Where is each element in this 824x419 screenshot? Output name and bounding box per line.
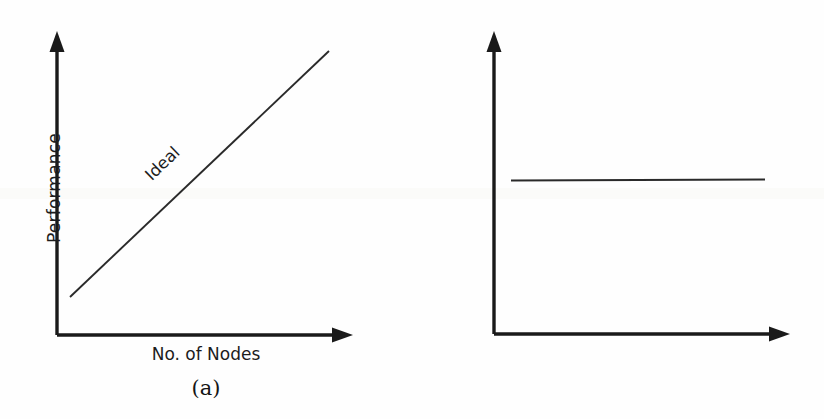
figure-container: Performance Ideal No. of Nodes (a) Perfo…: [0, 0, 824, 419]
chart-panel-a: Performance Ideal No. of Nodes (a): [0, 0, 412, 419]
y-axis-label-a: Performance: [44, 133, 64, 243]
panel-caption-a: (a): [0, 376, 412, 400]
ideal-line-a: [70, 51, 329, 297]
y-axis-arrowhead-b: [487, 31, 502, 52]
x-axis-arrowhead-a: [332, 328, 353, 343]
ideal-line-b: [511, 180, 765, 181]
chart-panel-b: Performance Ideal No. of Nodes, DB Size,…: [412, 0, 824, 419]
x-axis-arrowhead-b: [769, 327, 790, 342]
chart-b-axes-and-line: [412, 0, 824, 419]
x-axis-label-a: No. of Nodes: [0, 344, 412, 364]
y-axis-arrowhead-a: [50, 31, 65, 52]
